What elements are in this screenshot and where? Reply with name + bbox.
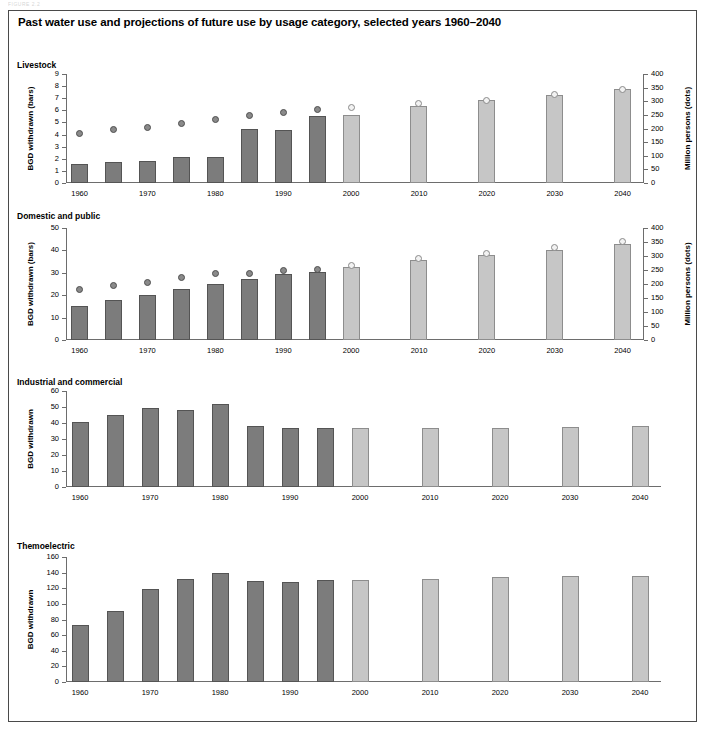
y2-axis-tick: [644, 228, 648, 229]
bar: [410, 106, 427, 183]
bar: [173, 289, 190, 340]
x-axis-tick-label: 2020: [467, 189, 507, 198]
y2-axis-tick: [644, 101, 648, 102]
bar: [614, 244, 631, 340]
data-point-dot: [110, 282, 117, 289]
x-axis-tick-label: 2000: [340, 493, 380, 502]
bar: [352, 580, 369, 682]
y-axis-line: [66, 228, 67, 340]
page-header-fragment: FIGURE 2.2: [8, 1, 68, 7]
y2-axis-tick: [644, 129, 648, 130]
bar: [241, 129, 258, 183]
x-axis-tick-label: 2040: [603, 346, 643, 355]
y-axis-title: BGD withdrawn: [26, 391, 35, 487]
x-axis-tick-label: 2020: [480, 493, 520, 502]
y2-axis-tick: [644, 88, 648, 89]
y2-axis-tick-label: 350: [651, 237, 664, 246]
data-point-dot: [76, 130, 83, 137]
bar: [309, 116, 326, 183]
bar: [212, 573, 229, 682]
panel-title: Themoelectric: [17, 541, 75, 551]
y-axis-tick: [62, 122, 66, 123]
bar: [478, 100, 495, 183]
bar: [562, 576, 579, 682]
x-axis-tick-label: 1960: [60, 189, 100, 198]
y2-axis-tick: [644, 183, 648, 184]
y2-axis-tick: [644, 242, 648, 243]
x-axis-tick-label: 1990: [270, 688, 310, 697]
plot-area: 0102030405060: [66, 391, 661, 487]
y-axis-tick: [62, 423, 66, 424]
data-point-dot: [76, 286, 83, 293]
bar: [105, 300, 122, 340]
y-axis-tick: [62, 295, 66, 296]
y2-axis-tick-label: 150: [651, 293, 664, 302]
y2-axis-title: Million persons (dots): [683, 228, 692, 340]
bar: [207, 157, 224, 183]
y-axis-tick: [62, 588, 66, 589]
data-point-dot: [178, 120, 185, 127]
x-axis-tick-label: 2030: [535, 346, 575, 355]
y-axis-tick: [62, 273, 66, 274]
bar: [632, 426, 649, 487]
data-point-dot: [212, 116, 219, 123]
x-axis-tick-label: 1980: [195, 346, 235, 355]
data-point-dot: [178, 274, 185, 281]
data-point-dot: [348, 262, 355, 269]
bar: [107, 611, 124, 682]
y-axis-tick: [62, 471, 66, 472]
y2-axis-tick-label: 250: [651, 110, 664, 119]
x-axis-tick-label: 1980: [200, 688, 240, 697]
y2-axis-tick-label: 200: [651, 279, 664, 288]
bar: [478, 255, 495, 340]
bar: [343, 267, 360, 340]
x-axis-tick-label: 2010: [410, 688, 450, 697]
bar: [562, 427, 579, 487]
figure-page: FIGURE 2.2 Past water use and projection…: [0, 0, 705, 731]
x-axis-tick-label: 2040: [620, 688, 660, 697]
y-axis-tick: [62, 228, 66, 229]
x-axis-tick-label: 2010: [399, 346, 439, 355]
bar: [212, 404, 229, 487]
y-axis-tick: [62, 110, 66, 111]
y-axis-tick: [62, 250, 66, 251]
bar: [139, 295, 156, 340]
figure-title: Past water use and projections of future…: [18, 16, 668, 28]
y-axis-tick: [62, 487, 66, 488]
y2-axis-tick: [644, 142, 648, 143]
y2-axis-tick-label: 300: [651, 96, 664, 105]
x-axis-tick-label: 1990: [263, 189, 303, 198]
y2-axis-tick-label: 0: [651, 335, 655, 344]
bar: [107, 415, 124, 487]
data-point-dot: [212, 270, 219, 277]
data-point-dot: [246, 112, 253, 119]
y-axis-tick: [62, 183, 66, 184]
y2-axis-tick-label: 250: [651, 265, 664, 274]
y2-axis-tick-label: 100: [651, 151, 664, 160]
y-axis-tick: [62, 651, 66, 652]
y2-axis-tick-label: 400: [651, 69, 664, 78]
y2-axis-tick: [644, 270, 648, 271]
y-axis-tick: [62, 407, 66, 408]
bar: [422, 579, 439, 682]
bar: [139, 161, 156, 183]
plot-area: 01020304050050100150200250300350400: [66, 228, 661, 340]
data-point-dot: [144, 279, 151, 286]
data-point-dot: [144, 124, 151, 131]
y-axis-line: [66, 391, 67, 487]
bar: [422, 428, 439, 487]
x-axis-tick-label: 1980: [200, 493, 240, 502]
bar: [275, 274, 292, 340]
data-point-dot: [110, 126, 117, 133]
bar: [546, 250, 563, 340]
y2-axis-tick-label: 50: [651, 164, 659, 173]
y-axis-tick: [62, 318, 66, 319]
bar: [142, 408, 159, 487]
y-axis-tick: [62, 135, 66, 136]
y-axis-tick: [62, 391, 66, 392]
bar: [492, 577, 509, 682]
y-axis-title: BGD withdrawn: [26, 557, 35, 682]
bar: [247, 426, 264, 487]
bar: [71, 164, 88, 183]
bar: [275, 130, 292, 183]
